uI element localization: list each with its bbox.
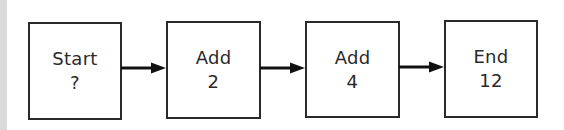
arrow-start-to-add2 — [121, 61, 167, 75]
arrow-right-icon — [399, 60, 445, 74]
node-add-4-value: 4 — [347, 70, 359, 94]
arrow-right-icon — [260, 61, 306, 75]
node-add-2-value: 2 — [208, 70, 220, 94]
node-start-title: Start — [52, 47, 97, 71]
node-add-4: Add 4 — [305, 21, 400, 118]
arrow-right-icon — [121, 61, 167, 75]
node-add-2-title: Add — [196, 46, 232, 70]
node-add-4-title: Add — [335, 46, 371, 70]
left-edge-strip — [0, 0, 7, 130]
node-end-value: 12 — [479, 69, 503, 93]
node-start-value: ? — [70, 71, 80, 95]
node-start: Start ? — [28, 22, 122, 120]
arrow-add2-to-add4 — [260, 61, 306, 75]
node-add-2: Add 2 — [166, 21, 261, 119]
arrow-add4-to-end — [399, 60, 445, 74]
node-end: End 12 — [444, 20, 538, 118]
node-end-title: End — [473, 45, 508, 69]
